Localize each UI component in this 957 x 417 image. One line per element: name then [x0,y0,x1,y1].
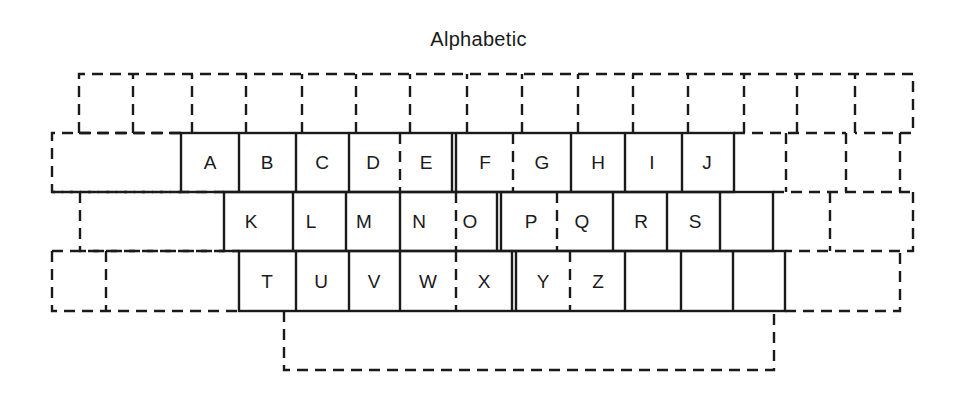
key-q: Q [575,211,590,232]
key-k: K [245,211,258,232]
return-key-outline [785,192,913,251]
key-z: Z [592,271,604,292]
space-bar-outline [284,311,774,370]
top-row-outline [79,74,913,133]
key-w: W [419,271,437,292]
dashed-outline-keys [52,74,913,370]
key-p: P [525,211,538,232]
key-h: H [591,152,605,173]
key-u: U [314,271,328,292]
shift-right-outline [785,251,900,311]
key-b: B [261,152,274,173]
key-t: T [261,271,273,292]
key-o: O [463,211,478,232]
key-i: I [649,152,654,173]
key-e: E [420,152,433,173]
shift-left-outline [52,251,239,311]
key-d: D [366,152,380,173]
key-s: S [689,211,702,232]
key-x: X [478,271,491,292]
caps-key-outline [80,192,224,251]
tab-key-outline [52,133,181,192]
key-a: A [204,152,217,173]
key-c: C [315,152,329,173]
key-y: Y [537,271,550,292]
key-labels: A B C D E F G H I J K L M N O P Q R S T … [204,152,712,292]
key-l: L [306,211,317,232]
key-v: V [368,271,381,292]
key-m: M [356,211,372,232]
key-n: N [412,211,426,232]
key-f: F [479,152,491,173]
keyboard-layout-diagram: A B C D E F G H I J K L M N O P Q R S T … [0,0,957,417]
key-r: R [634,211,648,232]
key-j: J [702,152,712,173]
key-g: G [535,152,550,173]
